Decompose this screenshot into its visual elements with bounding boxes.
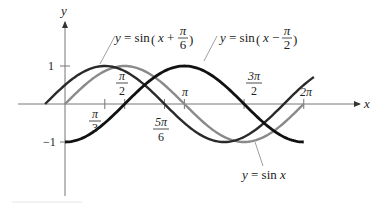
svg-text:2: 2 bbox=[119, 84, 125, 98]
leader-sin-x bbox=[255, 142, 263, 166]
svg-text:(: ( bbox=[151, 32, 155, 47]
svg-text:3: 3 bbox=[92, 121, 98, 135]
tick-label-3pi-2: 3π 2 bbox=[246, 69, 262, 98]
svg-text:y = sin: y = sin bbox=[218, 30, 255, 45]
svg-text:6: 6 bbox=[180, 37, 187, 52]
svg-text:x −: x − bbox=[262, 30, 279, 45]
svg-text:π: π bbox=[284, 23, 291, 38]
svg-text:6: 6 bbox=[158, 130, 164, 144]
tick-label-pi-3: π 3 bbox=[89, 107, 101, 135]
leader-sin-x-minus-pi-2 bbox=[204, 36, 217, 61]
tick-label-2pi: 2π bbox=[300, 85, 313, 99]
y-tick-label-minus-1: −1 bbox=[43, 135, 56, 149]
equation-sin-x: y = sin x bbox=[240, 167, 286, 182]
y-tick-label-1: 1 bbox=[48, 59, 54, 73]
svg-text:(: ( bbox=[256, 32, 260, 47]
svg-text:2: 2 bbox=[251, 84, 257, 98]
svg-text:): ) bbox=[293, 32, 297, 47]
svg-text:): ) bbox=[189, 32, 193, 47]
svg-text:π: π bbox=[92, 107, 99, 121]
x-axis-label: x bbox=[363, 96, 370, 111]
tick-label-5pi-6: 5π 6 bbox=[153, 115, 169, 144]
svg-text:y = sin: y = sin bbox=[113, 30, 150, 45]
svg-text:π: π bbox=[119, 69, 126, 83]
leader-sin-x-plus-pi-6 bbox=[100, 36, 115, 64]
svg-text:2: 2 bbox=[284, 37, 291, 52]
equation-sin-x-plus-pi-6: y = sin ( x + π 6 ) bbox=[113, 23, 193, 52]
sine-graph: x y 1 −1 π 3 π 2 5π 6 π 3π 2 2π y = sin … bbox=[0, 0, 382, 204]
tick-label-pi-2: π 2 bbox=[116, 69, 128, 98]
svg-text:3π: 3π bbox=[247, 69, 261, 83]
tick-label-pi: π bbox=[182, 85, 189, 99]
svg-text:π: π bbox=[180, 23, 187, 38]
equation-sin-x-minus-pi-2: y = sin ( x − π 2 ) bbox=[218, 23, 297, 52]
svg-text:5π: 5π bbox=[155, 115, 168, 129]
svg-text:x +: x + bbox=[157, 30, 174, 45]
y-axis-label: y bbox=[59, 3, 67, 18]
